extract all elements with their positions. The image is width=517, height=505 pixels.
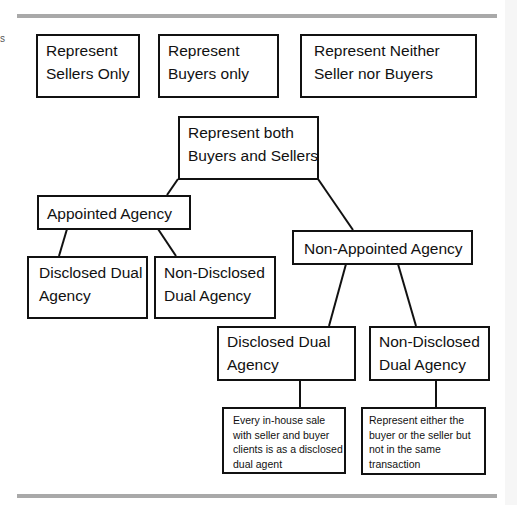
box-text-line: Dual Agency xyxy=(379,353,480,376)
box-appointed-agency: Appointed Agency xyxy=(37,195,191,230)
box-represent-sellers-only: Represent Sellers Only xyxy=(36,34,140,98)
box-text-line: Dual Agency xyxy=(164,284,266,307)
box-text-line: Buyers and Sellers xyxy=(188,144,309,167)
box-text-line: Seller nor Buyers xyxy=(314,62,467,85)
note-text-line: dual agent xyxy=(233,457,335,472)
box-text-line: Represent xyxy=(46,39,130,62)
note-text-line: clients is as a disclosed xyxy=(233,442,335,457)
note-text-line: Every in-house sale xyxy=(233,413,335,428)
box-text-line: Disclosed Dual xyxy=(227,330,346,353)
note-text-line: not in the same xyxy=(369,442,475,457)
note-text-line: buyer or the seller but xyxy=(369,428,475,443)
box-non-appointed-disclosed-dual: Disclosed Dual Agency xyxy=(217,326,356,381)
box-text-line: Agency xyxy=(227,353,346,376)
note-disclosed-dual-agent: Every in-house sale with seller and buye… xyxy=(222,407,346,474)
box-text-line: Buyers only xyxy=(168,62,269,85)
box-text-line: Disclosed Dual xyxy=(39,261,138,284)
note-non-disclosed-dual-agent: Represent either the buyer or the seller… xyxy=(361,407,486,475)
box-non-appointed-non-disclosed-dual: Non-Disclosed Dual Agency xyxy=(369,326,490,381)
box-text-line: Represent xyxy=(168,39,269,62)
box-represent-buyers-only: Represent Buyers only xyxy=(158,34,279,98)
box-appointed-disclosed-dual: Disclosed Dual Agency xyxy=(27,256,148,319)
box-text-line: Represent both xyxy=(188,121,309,144)
box-appointed-non-disclosed-dual: Non-Disclosed Dual Agency xyxy=(154,256,276,319)
box-text-line: Appointed Agency xyxy=(47,202,181,225)
box-text-line: Sellers Only xyxy=(46,62,130,85)
box-text-line: Represent Neither xyxy=(314,39,467,62)
box-text-line: Non-Appointed Agency xyxy=(304,237,463,260)
box-non-appointed-agency: Non-Appointed Agency xyxy=(292,230,473,265)
note-text-line: transaction xyxy=(369,457,475,472)
box-text-line: Non-Disclosed xyxy=(164,261,266,284)
box-represent-both: Represent both Buyers and Sellers xyxy=(178,116,319,180)
box-text-line: Non-Disclosed xyxy=(379,330,480,353)
note-text-line: with seller and buyer xyxy=(233,428,335,443)
note-text-line: Represent either the xyxy=(369,413,475,428)
box-text-line: Agency xyxy=(39,284,138,307)
box-represent-neither: Represent Neither Seller nor Buyers xyxy=(300,34,477,98)
